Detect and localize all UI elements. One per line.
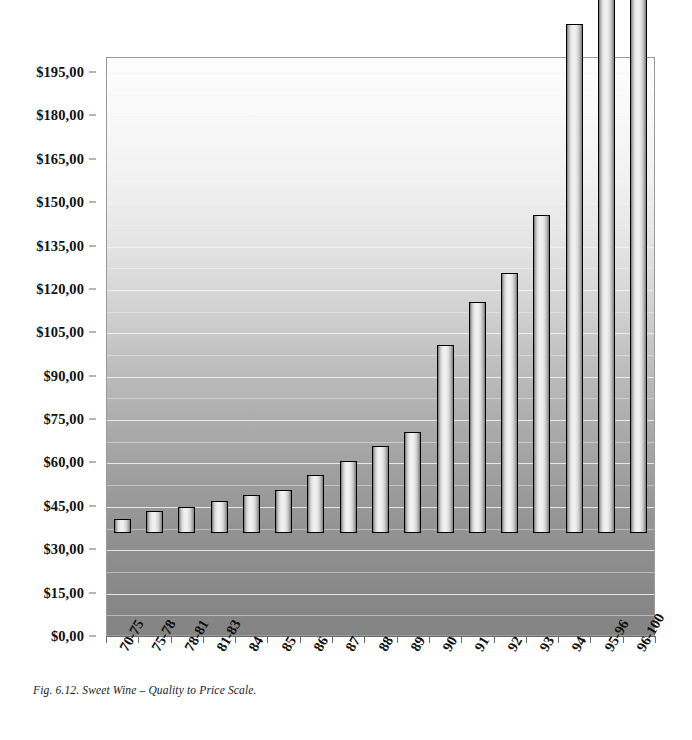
y-axis-tick-mark (89, 158, 96, 159)
x-axis-tick-mark (429, 636, 430, 643)
x-axis-tick-mark (267, 636, 268, 643)
bar-88[interactable] (372, 446, 389, 533)
y-axis-tick-mark (89, 505, 96, 506)
y-axis-tick-label: $135,00 (36, 237, 84, 254)
y-axis-tick-label: $195,00 (36, 64, 84, 81)
y-axis-tick-mark (89, 202, 96, 203)
y-axis-tick-label: $75,00 (44, 411, 84, 428)
y-axis-tick-label: $30,00 (44, 541, 84, 558)
bar-78-81[interactable] (178, 507, 195, 533)
bar-86[interactable] (307, 475, 324, 533)
y-axis-tick-mark (89, 72, 96, 73)
bar-91[interactable] (469, 302, 486, 533)
y-axis-tick-label: $180,00 (36, 107, 84, 124)
y-axis-tick-mark (89, 419, 96, 420)
bar-70-75[interactable] (114, 519, 131, 533)
y-axis-tick-label: $150,00 (36, 194, 84, 211)
x-axis-tick-mark (332, 636, 333, 643)
y-axis-tick-label: $0,00 (51, 628, 84, 645)
x-axis-tick-mark (558, 636, 559, 643)
bar-96-100[interactable] (630, 0, 647, 533)
bar-95-96[interactable] (598, 0, 615, 533)
y-axis-tick-mark (89, 332, 96, 333)
y-axis-tick-mark (89, 288, 96, 289)
y-axis-tick-label: $15,00 (44, 584, 84, 601)
x-axis-tick-mark (590, 636, 591, 643)
y-axis-tick-mark (89, 375, 96, 376)
figure-container: $0,00$15,00$30,00$45,00$60,00$75,00$90,0… (0, 0, 692, 740)
y-axis-tick-mark (89, 245, 96, 246)
y-axis-tick-label: $90,00 (44, 367, 84, 384)
y-axis-tick-label: $165,00 (36, 150, 84, 167)
bars-layer (106, 0, 655, 637)
figure-caption: Fig. 6.12. Sweet Wine – Quality to Price… (33, 684, 257, 696)
bar-81-83[interactable] (211, 501, 228, 533)
y-axis-tick-label: $105,00 (36, 324, 84, 341)
y-axis-tick-label: $60,00 (44, 454, 84, 471)
bar-84[interactable] (243, 495, 260, 533)
y-axis-tick-mark (89, 549, 96, 550)
x-axis-tick-mark (364, 636, 365, 643)
x-axis-tick-mark (106, 636, 107, 643)
x-axis-tick-mark (461, 636, 462, 643)
y-axis-tick-label: $45,00 (44, 497, 84, 514)
y-axis: $0,00$15,00$30,00$45,00$60,00$75,00$90,0… (0, 57, 96, 636)
y-axis-tick-label: $120,00 (36, 280, 84, 297)
bar-89[interactable] (404, 432, 421, 533)
y-axis-tick-mark (89, 462, 96, 463)
bar-85[interactable] (275, 490, 292, 533)
bar-93[interactable] (533, 215, 550, 533)
bar-75-78[interactable] (146, 511, 163, 533)
y-axis-tick-mark (89, 636, 96, 637)
x-axis-tick-mark (494, 636, 495, 643)
bar-87[interactable] (340, 461, 357, 533)
bar-92[interactable] (501, 273, 518, 533)
bar-94[interactable] (566, 24, 583, 533)
y-axis-tick-mark (89, 592, 96, 593)
y-axis-tick-mark (89, 115, 96, 116)
bar-90[interactable] (437, 345, 454, 533)
